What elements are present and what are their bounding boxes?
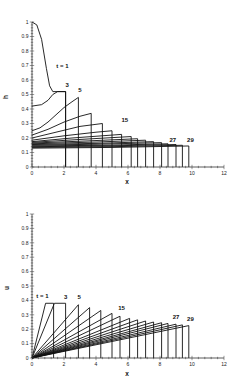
time-label: t = 1 <box>56 63 69 69</box>
series-line-t-13 <box>32 316 120 358</box>
axes: 02468101200.10.20.30.40.50.60.70.80.91 <box>22 19 227 176</box>
y-tick-label: 0.7 <box>22 62 29 68</box>
x-axis-title: x <box>125 370 129 377</box>
time-label: 15 <box>118 305 125 311</box>
time-label: t = 1 <box>36 293 49 299</box>
time-label: 29 <box>187 137 194 143</box>
data-series-group <box>32 22 189 167</box>
y-tick-label: 0 <box>26 355 29 361</box>
x-tick-label: 10 <box>189 170 195 176</box>
y-tick-label: 0.1 <box>22 340 29 346</box>
series-line-t-17 <box>32 320 138 358</box>
y-tick-label: 0.2 <box>22 326 29 332</box>
chart-figure: 02468101200.10.20.30.40.50.60.70.80.91xh… <box>0 0 240 391</box>
y-tick-label: 0.9 <box>22 33 29 39</box>
y-tick-label: 0.8 <box>22 240 29 246</box>
x-tick-label: 4 <box>95 361 98 367</box>
time-annotations: t = 135152729 <box>56 63 194 143</box>
x-tick-label: 10 <box>189 361 195 367</box>
time-label: 27 <box>169 137 176 143</box>
x-tick-label: 0 <box>31 170 34 176</box>
x-tick-label: 0 <box>31 361 34 367</box>
time-label: 5 <box>78 294 82 300</box>
y-tick-label: 0.8 <box>22 48 29 54</box>
y-tick-label: 1 <box>26 211 29 217</box>
y-axis-title: u <box>3 286 10 290</box>
x-tick-label: 4 <box>95 170 98 176</box>
time-label: 15 <box>121 117 128 123</box>
x-tick-label: 6 <box>127 361 130 367</box>
x-tick-label: 2 <box>63 361 66 367</box>
y-tick-label: 0.7 <box>22 254 29 260</box>
y-tick-label: 0.4 <box>22 106 29 112</box>
y-tick-label: 0.2 <box>22 135 29 141</box>
time-annotations: t = 135152729 <box>36 293 194 323</box>
y-tick-label: 0.6 <box>22 268 29 274</box>
y-tick-label: 0.5 <box>22 91 29 97</box>
y-axis-title: h <box>2 95 9 99</box>
x-axis-title: x <box>125 178 129 185</box>
y-tick-label: 0.3 <box>22 120 29 126</box>
time-label: 5 <box>78 87 82 93</box>
u-profile-chart: 02468101200.10.20.30.40.50.60.70.80.91xu… <box>3 211 227 377</box>
y-tick-label: 0.3 <box>22 312 29 318</box>
series-line-t-29 <box>32 145 182 167</box>
y-tick-label: 0 <box>26 164 29 170</box>
time-label: 29 <box>187 316 194 322</box>
x-tick-label: 2 <box>63 170 66 176</box>
data-series-group <box>32 303 189 358</box>
time-label: 3 <box>64 294 68 300</box>
h-profile-chart: 02468101200.10.20.30.40.50.60.70.80.91xh… <box>2 19 227 185</box>
x-tick-label: 8 <box>159 361 162 367</box>
y-tick-label: 1 <box>26 19 29 25</box>
x-tick-label: 12 <box>221 361 227 367</box>
time-label: 3 <box>66 82 70 88</box>
time-label: 27 <box>173 314 180 320</box>
y-tick-label: 0.9 <box>22 225 29 231</box>
y-tick-label: 0.4 <box>22 297 29 303</box>
y-tick-label: 0.5 <box>22 283 29 289</box>
y-tick-label: 0.1 <box>22 149 29 155</box>
x-tick-label: 8 <box>159 170 162 176</box>
series-line-t-31 <box>32 146 189 167</box>
x-tick-label: 6 <box>127 170 130 176</box>
y-tick-label: 0.6 <box>22 77 29 83</box>
x-tick-label: 12 <box>221 170 227 176</box>
